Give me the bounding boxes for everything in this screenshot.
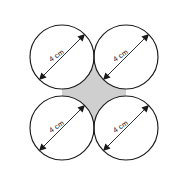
four-circles-diagram: 4 cm 4 cm 4 cm 4 cm (0, 0, 184, 184)
geometry-figure: 4 cm 4 cm 4 cm 4 cm (0, 0, 184, 184)
